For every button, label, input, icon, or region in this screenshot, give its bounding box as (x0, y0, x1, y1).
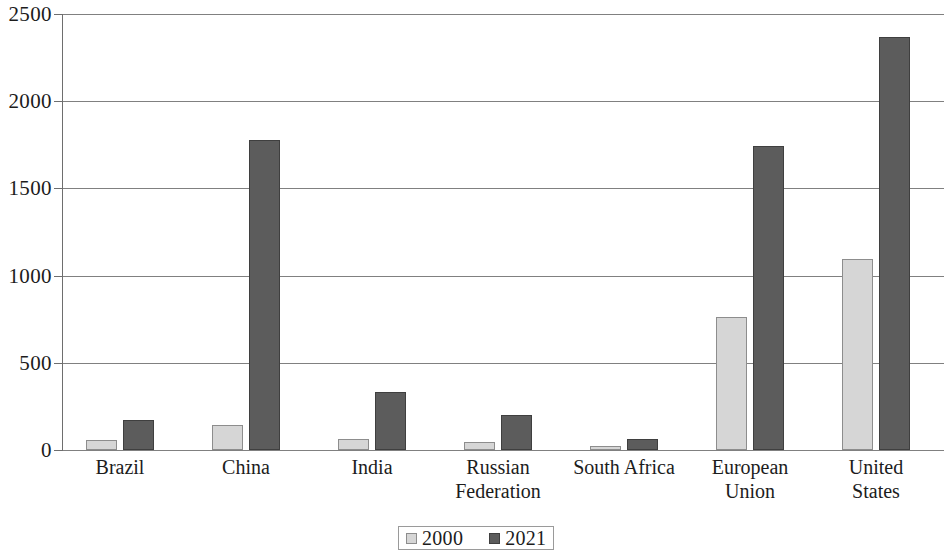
x-axis-label: India (309, 455, 435, 479)
legend-swatch-icon (406, 533, 417, 544)
bar-2021-india (375, 392, 406, 450)
bar-2000-european-union (716, 317, 747, 450)
x-axis-category-labels: BrazilChinaIndiaRussian FederationSouth … (62, 455, 944, 511)
bar-2021-south-africa (627, 439, 658, 450)
legend-item-2000[interactable]: 2000 (406, 528, 463, 548)
legend-swatch-icon (489, 533, 500, 544)
gridline (62, 276, 944, 277)
bar-2021-united-states (879, 37, 910, 450)
legend-label: 2021 (505, 528, 546, 548)
gridline (62, 363, 944, 364)
plot-area (62, 14, 944, 450)
gridline (62, 14, 944, 15)
y-axis-tick-label: 1000 (0, 266, 52, 287)
bar-2000-united-states (842, 259, 873, 450)
x-axis-label: China (183, 455, 309, 479)
y-axis-tick-label: 2000 (0, 91, 52, 112)
bar-chart: 05001000150020002500 BrazilChinaIndiaRus… (0, 0, 944, 554)
bar-2000-south-africa (590, 446, 621, 450)
y-axis-tick-label: 500 (0, 353, 52, 374)
y-axis-tick-labels: 05001000150020002500 (0, 0, 52, 460)
bar-2021-russian-federation (501, 415, 532, 450)
gridline (62, 450, 944, 451)
gridline (62, 188, 944, 189)
y-axis-tick-mark (54, 276, 63, 277)
bar-2000-russian-federation (464, 442, 495, 450)
y-axis-tick-mark (54, 450, 63, 451)
bar-2000-brazil (86, 440, 117, 450)
y-axis-tick-label: 1500 (0, 178, 52, 199)
x-axis-label: Brazil (57, 455, 183, 479)
bar-2021-european-union (753, 146, 784, 450)
y-axis-tick-mark (54, 101, 63, 102)
y-axis-tick-label: 2500 (0, 4, 52, 25)
y-axis-tick-mark (54, 14, 63, 15)
x-axis-label: Russian Federation (435, 455, 561, 503)
gridline (62, 101, 944, 102)
y-axis-tick-mark (54, 363, 63, 364)
chart-legend: 20002021 (398, 526, 554, 550)
bar-2000-china (212, 425, 243, 450)
x-axis-label: South Africa (561, 455, 687, 479)
y-axis-tick-mark (54, 188, 63, 189)
bar-2021-brazil (123, 420, 154, 450)
y-axis-tick-label: 0 (0, 440, 52, 461)
bar-2000-india (338, 439, 369, 450)
legend-item-2021[interactable]: 2021 (489, 528, 546, 548)
x-axis-label: United States (813, 455, 939, 503)
legend-label: 2000 (422, 528, 463, 548)
bar-2021-china (249, 140, 280, 450)
x-axis-label: European Union (687, 455, 813, 503)
